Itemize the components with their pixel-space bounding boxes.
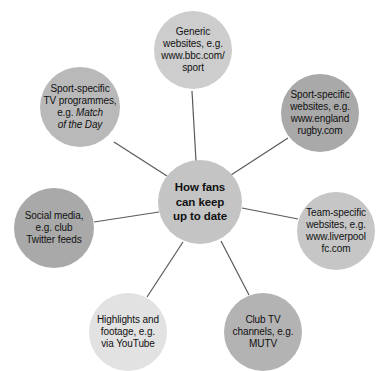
spoke-social-media — [94, 212, 159, 222]
node-generic-websites: Genericwebsites, e.g.www.bbc.com/sport — [154, 11, 232, 89]
node-club-tv-channels: Club TVchannels, e.g.MUTV — [224, 293, 302, 371]
spoke-sport-specific-tv — [114, 142, 167, 176]
node-team-specific-websites: Team-specificwebsites, e.g.www.liverpool… — [297, 192, 375, 270]
node-label-social-media: Social media,e.g. clubTwitter feeds — [22, 210, 87, 245]
node-label-team-specific-websites: Team-specificwebsites, e.g.www.liverpool… — [303, 207, 369, 254]
node-label-sport-specific-tv: Sport-specificTV programmes,e.g. Matchof… — [40, 83, 119, 130]
node-highlights-footage: Highlights andfootage, e.g.via YouTube — [89, 293, 167, 371]
node-label-highlights-footage: Highlights andfootage, e.g.via YouTube — [94, 314, 162, 349]
node-sport-specific-tv: Sport-specificTV programmes,e.g. Matchof… — [40, 67, 120, 147]
spoke-team-specific-websites — [242, 208, 298, 219]
node-label-generic-websites: Genericwebsites, e.g.www.bbc.com/sport — [158, 26, 227, 73]
node-label-club-tv-channels: Club TVchannels, e.g.MUTV — [230, 314, 297, 349]
spoke-sport-specific-websites — [231, 138, 288, 175]
node-label-sport-specific-websites: Sport-specificwebsites, e.g.www.englandr… — [287, 89, 353, 136]
node-sport-specific-websites: Sport-specificwebsites, e.g.www.englandr… — [281, 74, 359, 152]
spoke-highlights-footage — [147, 242, 183, 297]
spoke-club-tv-channels — [221, 241, 249, 295]
spoke-generic-websites — [192, 91, 196, 161]
diagram-root: Genericwebsites, e.g.www.bbc.com/sportSp… — [0, 0, 384, 371]
italic-programme-title: of the Day — [58, 119, 103, 130]
hub-node: How fanscan keepup to date — [158, 160, 242, 244]
hub-node-label: How fanscan keepup to date — [170, 180, 230, 223]
node-social-media: Social media,e.g. clubTwitter feeds — [14, 188, 94, 268]
italic-programme-title: Match — [76, 107, 103, 118]
